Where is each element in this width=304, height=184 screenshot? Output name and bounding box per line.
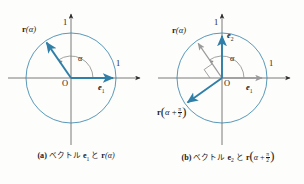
- r-rot-arg-b: α +: [165, 107, 177, 117]
- angle-alpha-label-b: α: [230, 54, 234, 63]
- caption-b-e-sub: 2: [231, 157, 234, 163]
- panel-a-diagram: [0, 0, 152, 152]
- vector-r-alpha: [198, 43, 222, 78]
- vector-e1-label-b: e1: [246, 82, 253, 94]
- e1-subscript-b: 1: [250, 88, 253, 94]
- unit-x-label-b: 1: [269, 59, 273, 68]
- vector-r-alpha-plus-half-pi: [188, 78, 222, 102]
- caption-b-tag: (b): [181, 153, 191, 162]
- unit-x-label-a: 1: [116, 59, 120, 68]
- origin-label-b: O: [224, 79, 230, 88]
- r-rot-fraction-b: π 2: [178, 107, 182, 119]
- vector-e1-label-a: e1: [98, 82, 105, 94]
- caption-a-e-sub: 1: [87, 156, 90, 162]
- r-rot-frac-den-b: 2: [178, 113, 182, 119]
- vector-r-alpha: [47, 43, 71, 78]
- origin-label-a: O: [62, 79, 68, 88]
- caption-b-conj: と: [236, 153, 244, 162]
- caption-a-tag: (a): [37, 151, 46, 160]
- unit-y-label-a: 1: [63, 18, 67, 27]
- vector-e2-label-b: e2: [227, 30, 234, 42]
- figure-container: O 1 1 α r(α) e1 (a) ベクトル e1 と r(α): [0, 0, 304, 184]
- caption-b-jp: ベクトル: [193, 153, 225, 162]
- panel-b: O 1 1 α r(α) e2 e1 r(α + π 2 ) (b) ベクトル …: [152, 0, 304, 184]
- right-angle-marker: [204, 64, 212, 78]
- r-arg-a: (α): [26, 24, 36, 34]
- caption-b-frac-den: 2: [266, 158, 270, 164]
- caption-a-conj: と: [91, 151, 99, 160]
- caption-a-r-arg: (α): [105, 151, 115, 160]
- unit-y-label-b: 1: [214, 18, 218, 27]
- vector-r-alpha-label-a: r(α): [22, 24, 36, 34]
- e2-subscript-b: 2: [231, 36, 234, 42]
- e1-subscript-a: 1: [102, 88, 105, 94]
- caption-b: (b) ベクトル e2 と r(α + π 2 ): [152, 152, 304, 164]
- caption-b-r-arg: α +: [254, 153, 265, 162]
- caption-b-fraction: π 2: [266, 152, 270, 164]
- vector-r-alpha-label-b: r(α): [172, 25, 186, 35]
- vector-r-alpha-plus-half-pi-label-b: r(α + π 2 ): [157, 107, 187, 119]
- caption-a-jp: ベクトル: [49, 151, 81, 160]
- panel-b-diagram: [152, 0, 304, 152]
- angle-alpha-label-a: α: [78, 54, 82, 63]
- caption-b-r: r: [246, 153, 250, 162]
- caption-a: (a) ベクトル e1 と r(α): [0, 152, 152, 162]
- panel-a: O 1 1 α r(α) e1 (a) ベクトル e1 と r(α): [0, 0, 152, 184]
